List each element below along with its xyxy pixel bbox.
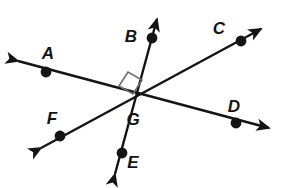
geometry-diagram: A B C D E F G — [0, 0, 290, 188]
label-c: C — [213, 19, 226, 38]
line-f-c — [41, 29, 261, 148]
label-f: F — [47, 109, 58, 128]
point-e — [117, 148, 128, 159]
label-a: A — [41, 44, 54, 63]
label-b: B — [125, 27, 137, 46]
point-a — [41, 67, 52, 78]
point-f — [55, 131, 66, 142]
label-g: G — [126, 110, 139, 129]
point-c — [236, 36, 247, 47]
diagram-canvas: A B C D E F G — [0, 0, 290, 188]
label-e: E — [127, 153, 139, 172]
label-d: D — [228, 97, 240, 116]
point-b — [147, 33, 158, 44]
point-d — [231, 118, 242, 129]
